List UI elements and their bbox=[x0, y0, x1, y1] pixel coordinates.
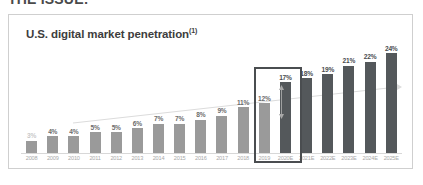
x-axis-tick: 2018 bbox=[233, 155, 254, 161]
bar bbox=[238, 107, 249, 153]
bar-value-label: 24% bbox=[385, 45, 398, 52]
chart-card: U.S. digital market penetration(1) 3%4%4… bbox=[8, 14, 413, 169]
bar bbox=[153, 124, 164, 153]
bar bbox=[174, 124, 185, 153]
chart-title-footnote-marker: (1) bbox=[189, 27, 197, 34]
bar-slot: 11% bbox=[233, 45, 254, 153]
bar bbox=[111, 132, 122, 153]
x-axis-tick: 2009 bbox=[42, 155, 63, 161]
bar-value-label: 21% bbox=[343, 57, 356, 64]
bar-value-label: 7% bbox=[175, 115, 184, 122]
x-axis-tick: 2021E bbox=[296, 155, 317, 161]
bar-slot: 19% bbox=[317, 45, 338, 153]
bar-value-label: 4% bbox=[69, 128, 78, 135]
bar bbox=[343, 66, 354, 153]
bar bbox=[365, 62, 376, 153]
x-axis-tick: 2024E bbox=[360, 155, 381, 161]
chart-title: U.S. digital market penetration(1) bbox=[26, 27, 197, 40]
bar-slot: 21% bbox=[338, 45, 359, 153]
bar-slot: 18% bbox=[296, 45, 317, 153]
bar-slot: 5% bbox=[106, 45, 127, 153]
bar-slot: 6% bbox=[127, 45, 148, 153]
bar-slot: 17% bbox=[275, 45, 296, 153]
bar-value-label: 17% bbox=[279, 74, 292, 81]
x-axis-tick: 2008 bbox=[21, 155, 42, 161]
bar bbox=[322, 74, 333, 153]
x-axis-tick: 2019 bbox=[254, 155, 275, 161]
bar-value-label: 6% bbox=[133, 120, 142, 127]
bar-slot: 3% bbox=[21, 45, 42, 153]
x-axis-tick: 2025E bbox=[381, 155, 402, 161]
bar-value-label: 5% bbox=[112, 124, 121, 131]
bar-value-label: 12% bbox=[258, 95, 271, 102]
x-axis-tick: 2017 bbox=[211, 155, 232, 161]
x-axis-tick: 2022E bbox=[317, 155, 338, 161]
x-axis-tick: 2015 bbox=[169, 155, 190, 161]
x-axis-tick: 2013 bbox=[127, 155, 148, 161]
bar-value-label: 11% bbox=[237, 99, 249, 106]
bar-value-label: 9% bbox=[217, 107, 226, 114]
x-axis-tick: 2012 bbox=[106, 155, 127, 161]
x-axis-tick: 2016 bbox=[190, 155, 211, 161]
bar bbox=[280, 82, 291, 153]
slide-canvas: THE ISSUE: U.S. digital market penetrati… bbox=[0, 0, 423, 185]
bar-value-label: 19% bbox=[321, 66, 334, 73]
bar-value-label: 18% bbox=[300, 70, 313, 77]
bar bbox=[259, 103, 270, 153]
bar-slot: 5% bbox=[84, 45, 105, 153]
slide-heading-truncated: THE ISSUE: bbox=[8, 0, 89, 5]
bar-series: 3%4%4%5%5%6%7%7%8%9%11%12%17%18%19%21%22… bbox=[21, 45, 402, 153]
bar-slot: 22% bbox=[360, 45, 381, 153]
x-axis-tick: 2023E bbox=[338, 155, 359, 161]
bar-value-label: 8% bbox=[196, 111, 205, 118]
chart-plot-area: 3%4%4%5%5%6%7%7%8%9%11%12%17%18%19%21%22… bbox=[21, 45, 402, 153]
x-axis-tick: 2010 bbox=[63, 155, 84, 161]
bar-value-label: 22% bbox=[364, 53, 377, 60]
bar-value-label: 3% bbox=[27, 132, 36, 139]
bar-value-label: 5% bbox=[90, 124, 99, 131]
bar-value-label: 7% bbox=[154, 115, 163, 122]
bar bbox=[68, 136, 79, 153]
x-axis-tick: 2014 bbox=[148, 155, 169, 161]
x-axis-labels: 2008200920102011201220132014201520162017… bbox=[21, 155, 402, 161]
bar-value-label: 4% bbox=[48, 128, 57, 135]
bar bbox=[90, 132, 101, 153]
bar bbox=[47, 136, 58, 153]
bar-slot: 4% bbox=[42, 45, 63, 153]
x-axis-tick: 2011 bbox=[84, 155, 105, 161]
bar-slot: 12% bbox=[254, 45, 275, 153]
bar bbox=[195, 120, 206, 153]
bar-slot: 7% bbox=[169, 45, 190, 153]
bar-slot: 7% bbox=[148, 45, 169, 153]
bar bbox=[26, 141, 37, 153]
bar-slot: 4% bbox=[63, 45, 84, 153]
bar bbox=[386, 53, 397, 153]
bar-slot: 9% bbox=[211, 45, 232, 153]
x-axis-line bbox=[21, 153, 402, 154]
bar bbox=[216, 116, 227, 153]
bar bbox=[301, 78, 312, 153]
x-axis-tick: 2020E bbox=[275, 155, 296, 161]
chart-title-text: U.S. digital market penetration bbox=[26, 28, 189, 40]
bar-slot: 24% bbox=[381, 45, 402, 153]
bar-slot: 8% bbox=[190, 45, 211, 153]
bar bbox=[132, 128, 143, 153]
